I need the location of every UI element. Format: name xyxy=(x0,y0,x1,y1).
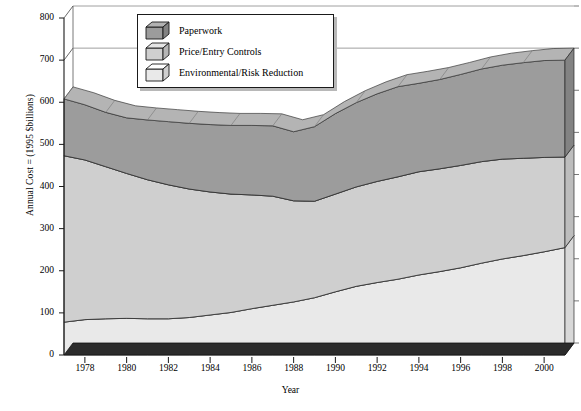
y-tick-100: 100 xyxy=(20,308,54,317)
chart-legend: Paperwork Price/Entry Controls Environme… xyxy=(137,14,334,88)
legend-label: Environmental/Risk Reduction xyxy=(179,67,303,78)
cube-icon xyxy=(145,63,171,82)
y-tick-700: 700 xyxy=(20,55,54,64)
x-tick-1998: 1998 xyxy=(482,363,522,373)
legend-label: Paperwork xyxy=(179,25,222,36)
chart-figure: 0100200300400500600700800 19781980198219… xyxy=(0,0,581,411)
legend-label: Price/Entry Controls xyxy=(179,46,262,57)
cube-icon xyxy=(145,21,171,40)
y-tick-800: 800 xyxy=(20,13,54,22)
x-tick-1980: 1980 xyxy=(107,363,147,373)
x-tick-1986: 1986 xyxy=(232,363,272,373)
y-axis-title: Annual Cost = (1995 $billions) xyxy=(25,65,35,245)
x-tick-1990: 1990 xyxy=(315,363,355,373)
x-tick-1992: 1992 xyxy=(357,363,397,373)
legend-item-price-entry-controls[interactable]: Price/Entry Controls xyxy=(145,41,262,61)
legend-item-environmental-risk-reduction[interactable]: Environmental/Risk Reduction xyxy=(145,62,303,82)
x-tick-1988: 1988 xyxy=(274,363,314,373)
x-tick-1994: 1994 xyxy=(399,363,439,373)
x-tick-2000: 2000 xyxy=(524,363,564,373)
x-tick-1984: 1984 xyxy=(190,363,230,373)
x-tick-1978: 1978 xyxy=(65,363,105,373)
y-tick-200: 200 xyxy=(20,266,54,275)
x-axis-title: Year xyxy=(0,385,581,395)
x-tick-1996: 1996 xyxy=(441,363,481,373)
y-tick-0: 0 xyxy=(20,350,54,359)
legend-item-paperwork[interactable]: Paperwork xyxy=(145,20,222,40)
cube-icon xyxy=(145,42,171,61)
x-tick-1982: 1982 xyxy=(148,363,188,373)
